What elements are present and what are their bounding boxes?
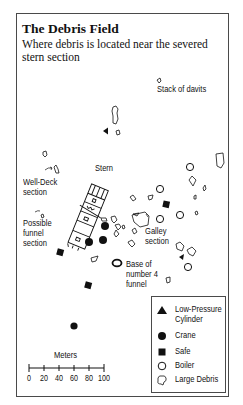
debris-lr-1 xyxy=(176,242,184,251)
scale-bar: Meters 0 20 40 60 80 100 xyxy=(26,350,116,390)
filled-triangle-icon xyxy=(156,304,168,316)
crane-3 xyxy=(99,236,107,244)
scale-tick-0: 0 xyxy=(27,373,31,383)
debris-mid-7 xyxy=(101,218,107,221)
boiler-5 xyxy=(184,263,191,270)
debris-mid-10 xyxy=(128,240,135,247)
debris-mid-4 xyxy=(111,216,117,223)
funnel-arrow xyxy=(35,211,40,212)
debris-mid-11 xyxy=(91,256,98,262)
boilers xyxy=(113,163,194,270)
label-well-deck-section: Well-Deck section xyxy=(23,177,57,197)
debris-right-2 xyxy=(189,176,196,186)
scale-tick-80: 80 xyxy=(85,373,93,383)
crane-4 xyxy=(70,322,77,329)
boiler-2 xyxy=(156,185,163,192)
debris-outline-icon xyxy=(156,374,168,386)
debris-upper-2 xyxy=(116,130,120,135)
scale-tick-60: 60 xyxy=(70,373,78,383)
filled-square-icon xyxy=(156,346,168,358)
low-pressure-cylinders xyxy=(103,128,184,261)
filled-circle-icon xyxy=(156,330,168,342)
label-stern: Stern xyxy=(95,163,113,173)
safe-3 xyxy=(84,281,92,289)
debris-lr-3 xyxy=(166,277,170,283)
safe-2 xyxy=(56,248,64,256)
crane-1 xyxy=(101,222,109,230)
label-stack-of-davits: Stack of davits xyxy=(157,84,206,94)
debris-left-1 xyxy=(43,151,47,157)
open-circle-icon xyxy=(156,360,168,372)
debris-right-5 xyxy=(195,211,198,215)
scale-tick-100: 100 xyxy=(98,373,110,383)
safe-1 xyxy=(162,200,170,208)
debris-right-3 xyxy=(203,185,206,191)
debris-mid-1 xyxy=(130,195,136,201)
large-debris-group xyxy=(41,78,224,283)
cylinder-1 xyxy=(103,128,108,135)
debris-right-1 xyxy=(216,153,224,168)
base-of-funnel-ring xyxy=(113,260,122,267)
cylinder-2 xyxy=(179,254,184,260)
label-galley-section: Galley section xyxy=(145,226,169,246)
crane-2 xyxy=(85,238,93,246)
debris-mid-6 xyxy=(114,230,119,237)
debris-mid-9 xyxy=(132,228,137,234)
boiler-3 xyxy=(156,215,163,222)
debris-davits xyxy=(157,78,161,83)
scale-title: Meters xyxy=(54,350,77,360)
scale-tick-40: 40 xyxy=(55,373,63,383)
debris-left-2 xyxy=(54,165,59,173)
legend: Low-Pressure Cylinder Crane Safe Boiler … xyxy=(151,296,226,393)
boiler-4 xyxy=(176,211,183,218)
debris-right-4 xyxy=(194,195,196,199)
debris-upper xyxy=(112,106,118,124)
label-base-of-funnel: Base of number 4 funnel xyxy=(126,259,158,289)
debris-mid-5 xyxy=(115,224,121,230)
boiler-1 xyxy=(186,163,193,170)
scale-tick-20: 20 xyxy=(40,373,48,383)
debris-lr-2 xyxy=(187,247,196,256)
debris-mid-8 xyxy=(122,225,125,229)
label-possible-funnel-section: Possible funnel section xyxy=(23,218,52,248)
debris-mid-2 xyxy=(148,195,153,200)
